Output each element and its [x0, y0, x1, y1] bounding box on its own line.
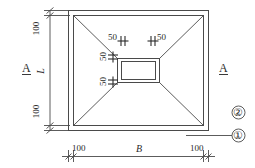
dimension-pedestal-side-lower: 50: [99, 77, 108, 86]
dimension-pedestal-top-left: 50: [108, 33, 117, 42]
left-dimension-line: [44, 8, 70, 134]
drawing-canvas: A A L 100 100 100 B 100 50 50 50 50 ② ①: [0, 0, 255, 168]
dimension-bottom-right: 100: [190, 144, 204, 153]
dimension-bottom-left-vertical: 100: [32, 105, 41, 119]
section-mark-left: A: [22, 62, 31, 75]
level-mark-upper: ②: [233, 107, 243, 118]
pedestal-inner: [122, 62, 156, 80]
dimension-bottom-center: B: [136, 144, 142, 154]
section-mark-right: A: [219, 62, 228, 75]
level-mark-lower: ①: [233, 130, 243, 141]
dimension-overall-length: L: [36, 68, 46, 74]
dimension-top-left-vertical: 100: [32, 22, 41, 36]
dimension-pedestal-top-right: 50: [157, 33, 166, 42]
dimension-pedestal-side-upper: 50: [99, 52, 108, 61]
dimension-bottom-left: 100: [72, 144, 86, 153]
